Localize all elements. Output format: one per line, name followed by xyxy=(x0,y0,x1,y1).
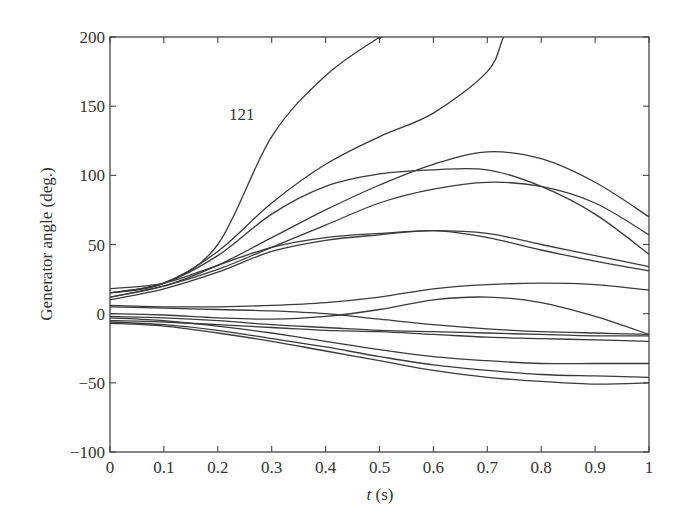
x-tick-label: 0.5 xyxy=(369,458,390,477)
x-tick-label: 1 xyxy=(645,458,654,477)
x-axis-label: t (s) xyxy=(367,485,394,504)
curve-121 xyxy=(110,2,396,293)
y-tick-label: 50 xyxy=(88,236,105,255)
y-tick-label: 0 xyxy=(97,305,106,324)
x-tick-label: 0.3 xyxy=(261,458,282,477)
x-tick-label: 0.6 xyxy=(423,458,444,477)
y-tick-label: −100 xyxy=(70,443,105,462)
y-tick-label: 200 xyxy=(80,28,106,47)
generator-angle-chart: 00.10.20.30.40.50.60.70.80.91 −100−50050… xyxy=(0,0,681,530)
y-tick-label: 100 xyxy=(80,166,106,185)
x-tick-label: 0 xyxy=(106,458,115,477)
plot-frame xyxy=(110,37,649,452)
x-tick-label: 0.9 xyxy=(584,458,605,477)
y-axis: −100−50050100150200 xyxy=(70,28,649,462)
y-tick-label: −50 xyxy=(78,374,105,393)
curve-gen-6 xyxy=(110,231,649,289)
x-tick-label: 0.2 xyxy=(207,458,228,477)
x-tick-label: 0.7 xyxy=(477,458,499,477)
curve-gen-8 xyxy=(110,283,649,307)
curve-annotation: 121 xyxy=(229,105,255,124)
curves-group xyxy=(110,2,649,384)
x-tick-label: 0.8 xyxy=(531,458,552,477)
curve-gen-7 xyxy=(110,231,649,300)
y-axis-label: Generator angle (deg.) xyxy=(37,167,56,320)
annotations: 121 xyxy=(229,105,255,124)
curve-gen-2 xyxy=(110,2,520,293)
x-tick-label: 0.1 xyxy=(153,458,174,477)
curve-gen-4 xyxy=(110,168,649,293)
x-tick-label: 0.4 xyxy=(315,458,337,477)
y-tick-label: 150 xyxy=(80,97,106,116)
